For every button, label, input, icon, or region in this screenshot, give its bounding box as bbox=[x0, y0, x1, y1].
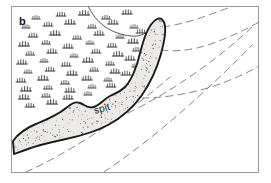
stipple-dot bbox=[33, 143, 34, 144]
stipple-dot bbox=[94, 122, 95, 123]
stipple-dot bbox=[150, 32, 151, 33]
stipple-dot bbox=[147, 64, 148, 65]
stipple-dot bbox=[158, 47, 159, 48]
stipple-dot bbox=[133, 91, 134, 92]
stipple-dot bbox=[62, 119, 63, 120]
stipple-dot bbox=[156, 59, 157, 60]
stipple-dot bbox=[158, 19, 159, 20]
stipple-dot bbox=[28, 137, 29, 138]
stipple-dot bbox=[82, 133, 83, 134]
stipple-dot bbox=[43, 125, 44, 126]
stipple-dot bbox=[124, 92, 125, 93]
stipple-dot bbox=[59, 129, 60, 130]
stipple-dot bbox=[126, 86, 127, 87]
stipple-dot bbox=[162, 26, 163, 27]
stipple-dot bbox=[59, 131, 60, 132]
stipple-dot bbox=[122, 102, 123, 103]
stipple-dot bbox=[110, 121, 111, 122]
stipple-dot bbox=[147, 84, 148, 85]
stipple-dot bbox=[163, 33, 164, 34]
figure-panel-b: b spit bbox=[0, 0, 271, 183]
stipple-dot bbox=[149, 58, 150, 59]
stipple-dot bbox=[125, 108, 126, 109]
stipple-dot bbox=[45, 131, 46, 132]
stipple-dot bbox=[70, 107, 71, 108]
stipple-dot bbox=[130, 91, 131, 92]
stipple-dot bbox=[80, 123, 81, 124]
stipple-dot bbox=[130, 96, 131, 97]
stipple-dot bbox=[72, 119, 73, 120]
stipple-dot bbox=[74, 114, 75, 115]
stipple-dot bbox=[147, 69, 148, 70]
stipple-dot bbox=[151, 58, 152, 59]
stipple-dot bbox=[132, 83, 133, 84]
stipple-dot bbox=[62, 137, 63, 138]
stipple-dot bbox=[119, 103, 120, 104]
stipple-dot bbox=[50, 132, 51, 133]
stipple-dot bbox=[78, 104, 79, 105]
stipple-dot bbox=[141, 58, 142, 59]
stipple-dot bbox=[143, 78, 144, 79]
stipple-dot bbox=[143, 58, 144, 59]
stipple-dot bbox=[69, 108, 70, 109]
stipple-dot bbox=[16, 147, 17, 148]
stipple-dot bbox=[145, 54, 146, 55]
stipple-dot bbox=[91, 118, 92, 119]
stipple-dot bbox=[127, 110, 128, 111]
stipple-dot bbox=[107, 119, 108, 120]
stipple-dot bbox=[146, 67, 147, 68]
stipple-dot bbox=[161, 42, 162, 43]
stipple-dot bbox=[85, 111, 86, 112]
stipple-dot bbox=[14, 146, 15, 147]
stipple-dot bbox=[104, 115, 105, 116]
stipple-dot bbox=[97, 121, 98, 122]
stipple-dot bbox=[70, 131, 71, 132]
stipple-dot bbox=[115, 101, 116, 102]
stipple-dot bbox=[135, 88, 136, 89]
stipple-dot bbox=[38, 127, 39, 128]
stipple-dot bbox=[45, 122, 46, 123]
stipple-dot bbox=[87, 126, 88, 127]
stipple-dot bbox=[137, 76, 138, 77]
stipple-dot bbox=[66, 112, 67, 113]
stipple-dot bbox=[77, 107, 78, 108]
stipple-dot bbox=[78, 116, 79, 117]
stipple-dot bbox=[73, 133, 74, 134]
stipple-dot bbox=[55, 136, 56, 137]
stipple-dot bbox=[119, 112, 120, 113]
stipple-dot bbox=[110, 99, 111, 100]
stipple-dot bbox=[146, 68, 147, 69]
stipple-dot bbox=[69, 123, 70, 124]
stipple-dot bbox=[20, 141, 21, 142]
stipple-dot bbox=[146, 63, 147, 64]
stipple-dot bbox=[146, 54, 147, 55]
stipple-dot bbox=[138, 63, 139, 64]
stipple-dot bbox=[128, 83, 129, 84]
stipple-dot bbox=[25, 140, 26, 141]
stipple-dot bbox=[48, 120, 49, 121]
stipple-dot bbox=[68, 131, 69, 132]
stipple-dot bbox=[87, 127, 88, 128]
stipple-dot bbox=[155, 58, 156, 59]
stipple-dot bbox=[42, 123, 43, 124]
stipple-dot bbox=[105, 122, 106, 123]
stipple-dot bbox=[111, 106, 112, 107]
stipple-dot bbox=[137, 66, 138, 67]
stipple-dot bbox=[151, 30, 152, 31]
stipple-dot bbox=[135, 82, 136, 83]
stipple-dot bbox=[143, 59, 144, 60]
stipple-dot bbox=[145, 66, 146, 67]
stipple-dot bbox=[34, 130, 35, 131]
stipple-dot bbox=[115, 105, 116, 106]
stipple-dot bbox=[136, 73, 137, 74]
stipple-dot bbox=[131, 106, 132, 107]
stipple-dot bbox=[92, 123, 93, 124]
stipple-dot bbox=[124, 112, 125, 113]
stipple-dot bbox=[73, 112, 74, 113]
stipple-dot bbox=[19, 140, 20, 141]
stipple-dot bbox=[148, 61, 149, 62]
stipple-dot bbox=[145, 75, 146, 76]
stipple-dot bbox=[35, 140, 36, 141]
stipple-dot bbox=[144, 49, 145, 50]
stipple-dot bbox=[150, 65, 151, 66]
